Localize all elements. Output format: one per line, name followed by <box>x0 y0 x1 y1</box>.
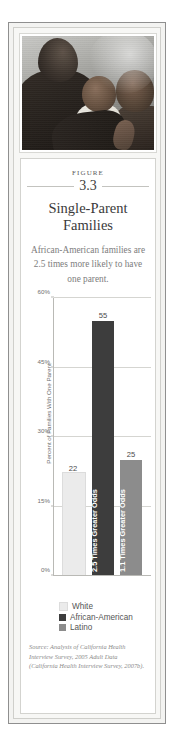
bar-slot: 22 <box>62 298 84 576</box>
photo-grain-overlay <box>22 36 154 150</box>
bar-annotation: 2.5 Times Greater Odds <box>90 489 99 572</box>
figure-inner-border: FIGURE 3.3 Single-Parent Families Africa… <box>13 27 161 719</box>
legend-label: White <box>72 602 93 611</box>
bar-slot: 2.5 Times Greater Odds55 <box>92 298 114 576</box>
bar-value-label: 55 <box>99 311 107 320</box>
bar-annotation: 1.1 Times Greater Odds <box>118 489 127 572</box>
figure-label: FIGURE <box>27 169 149 177</box>
y-axis-tick-label: 45% <box>38 357 50 364</box>
bar-slot: 1.1 Times Greater Odds25 <box>120 298 142 576</box>
figure-photo <box>20 34 156 152</box>
bar-chart: Percent of Families With One Parent 0%15… <box>27 298 151 598</box>
figure-title: Single-Parent Families <box>27 200 149 235</box>
chart-legend: WhiteAfrican-AmericanLatino <box>27 602 149 632</box>
legend-swatch <box>59 614 66 621</box>
legend-swatch <box>59 602 68 611</box>
legend-swatch <box>59 624 66 631</box>
y-axis-tick-label: 0% <box>41 566 50 573</box>
legend-label: African-American <box>70 613 133 622</box>
figure-source-note: Source: Analysis of California Health In… <box>27 642 149 671</box>
legend-item: White <box>59 602 149 611</box>
y-axis-tick-label: 15% <box>38 496 50 503</box>
y-axis-title: Percent of Families With One Parent <box>45 349 52 479</box>
chart-plot-area: 0%15%30%45%60% 222.5 Times Greater Odds5… <box>53 298 151 576</box>
figure-subtitle: African-American families are 2.5 times … <box>27 243 149 286</box>
chart-bars: 222.5 Times Greater Odds551.1 Times Grea… <box>54 298 151 576</box>
legend-item: African-American <box>59 613 149 622</box>
bar-african-american: 2.5 Times Greater Odds <box>92 321 114 576</box>
figure-number-block: FIGURE 3.3 <box>27 169 149 194</box>
bar-white <box>62 472 86 576</box>
mother-with-two-children-photo <box>22 36 154 150</box>
figure-rule-right <box>102 186 149 187</box>
figure-caption-card: FIGURE 3.3 Single-Parent Families Africa… <box>20 158 156 714</box>
y-axis-tick-label: 30% <box>38 427 50 434</box>
bar-latino: 1.1 Times Greater Odds <box>120 460 142 576</box>
legend-label: Latino <box>70 623 92 632</box>
figure-frame: FIGURE 3.3 Single-Parent Families Africa… <box>8 22 166 724</box>
chart-x-axis <box>53 575 151 576</box>
figure-number-row: 3.3 <box>27 178 149 194</box>
bar-value-label: 22 <box>69 464 77 473</box>
figure-title-line-1: Single-Parent <box>27 200 149 217</box>
bar-value-label: 25 <box>127 450 135 459</box>
legend-item: Latino <box>59 623 149 632</box>
figure-rule-left <box>27 186 74 187</box>
figure-title-line-2: Families <box>27 217 149 234</box>
figure-number: 3.3 <box>79 178 97 194</box>
y-axis-tick-label: 60% <box>38 288 50 295</box>
